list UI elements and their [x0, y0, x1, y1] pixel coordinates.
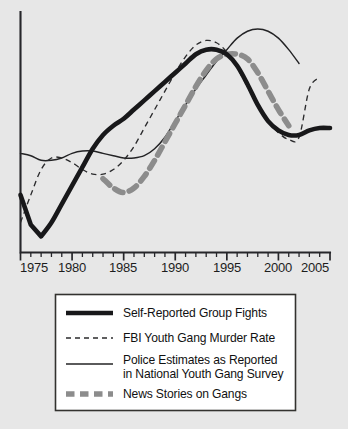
x-tick-label-1990: 1990 — [161, 260, 189, 275]
x-axis-tick-labels: 1975 1980 1985 1990 1995 2000 2005 — [20, 260, 329, 275]
x-tick-label-1975: 1975 — [20, 260, 48, 275]
legend: Self-Reported Group Fights FBI Youth Gan… — [56, 295, 296, 411]
legend-label-police-estimates-line1: Police Estimates as Reported — [123, 353, 277, 367]
x-tick-label-1995: 1995 — [213, 260, 241, 275]
legend-label-police-estimates-line2: in National Youth Gang Survey — [123, 367, 284, 381]
x-tick-label-1980: 1980 — [58, 260, 86, 275]
x-tick-label-2005: 2005 — [301, 260, 329, 275]
legend-label-fbi-youth-gang-murder-rate: FBI Youth Gang Murder Rate — [123, 331, 275, 345]
chart-figure: 1975 1980 1985 1990 1995 2000 2005 Self-… — [0, 0, 348, 429]
x-tick-label-2000: 2000 — [264, 260, 292, 275]
legend-label-news-stories-on-gangs: News Stories on Gangs — [123, 387, 247, 401]
line-chart-svg: 1975 1980 1985 1990 1995 2000 2005 Self-… — [0, 0, 348, 429]
legend-label-self-reported-group-fights: Self-Reported Group Fights — [123, 306, 267, 320]
x-tick-label-1985: 1985 — [109, 260, 137, 275]
